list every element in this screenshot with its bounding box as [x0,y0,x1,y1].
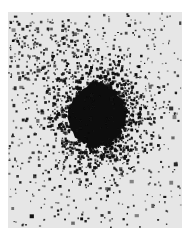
halo-star [119,159,121,161]
halo-star [102,156,103,157]
halo-star [77,88,79,90]
halo-star [120,84,123,87]
field-star [81,170,83,172]
field-star [94,79,96,80]
field-star [166,224,167,226]
halo-star [154,102,156,104]
field-star [24,46,26,47]
halo-star [62,151,65,154]
field-star [143,29,145,30]
halo-star [109,83,110,84]
halo-star [53,91,55,93]
field-star [16,65,19,68]
field-star [61,37,64,40]
halo-star [180,60,181,61]
field-star [65,105,66,107]
field-star [13,21,14,22]
field-star [110,97,114,101]
halo-star [54,61,55,62]
field-star [66,152,68,154]
field-star [147,48,149,50]
halo-star [88,60,90,62]
field-star [92,103,93,105]
halo-star [109,59,111,61]
halo-star [81,51,83,53]
halo-star [54,117,56,119]
field-star [97,34,98,36]
field-star [11,141,13,142]
halo-star [127,83,129,85]
halo-star [12,166,14,168]
field-star [166,210,168,212]
field-star [43,85,45,87]
field-star [74,52,75,54]
field-star [157,76,159,78]
field-star [39,126,40,128]
field-star [134,20,136,21]
halo-star [26,118,29,121]
field-star [129,62,130,64]
field-star [160,194,161,195]
field-star [21,28,24,31]
field-star [69,116,71,118]
halo-star [55,140,56,141]
field-star [150,95,152,97]
halo-star [131,89,133,91]
halo-star [177,75,180,78]
field-star [140,138,142,139]
field-star [76,178,77,179]
field-star [115,158,117,162]
halo-star [63,161,65,163]
halo-star [134,76,135,77]
field-star [38,189,40,191]
field-star [62,21,64,23]
halo-star [133,99,136,102]
halo-star [68,98,70,100]
halo-star [79,149,81,151]
halo-star [151,99,154,102]
halo-star [127,146,128,147]
halo-star [48,94,49,95]
halo-star [126,97,127,98]
halo-star [104,76,107,79]
halo-star [102,27,104,29]
field-star [35,38,37,40]
halo-star [48,178,51,181]
field-star [44,180,45,182]
field-star [95,84,96,86]
halo-star [64,82,66,84]
field-star [121,175,123,176]
halo-star [86,167,87,168]
halo-star [34,41,36,43]
field-star [33,174,36,178]
field-star [43,66,46,69]
field-star [63,42,66,45]
field-star [72,35,74,37]
halo-star [75,207,77,209]
field-star [90,183,92,185]
field-star [45,48,48,51]
field-star [85,199,86,201]
halo-star [59,160,60,161]
halo-star [64,159,66,161]
field-star [21,54,23,56]
field-star [177,120,179,122]
halo-star [95,54,96,55]
field-star [155,37,157,39]
field-star [11,73,12,74]
halo-star [119,174,120,175]
field-star [112,143,114,144]
field-star [54,62,56,64]
field-star [139,121,140,122]
field-star [40,51,42,53]
halo-star [76,169,79,172]
halo-star [48,122,49,123]
field-star [82,211,83,213]
halo-star [162,85,165,88]
field-star [107,190,108,192]
field-star [163,43,164,44]
halo-star [135,73,138,76]
halo-star [38,156,40,158]
field-star [58,117,59,119]
halo-star [78,152,80,154]
